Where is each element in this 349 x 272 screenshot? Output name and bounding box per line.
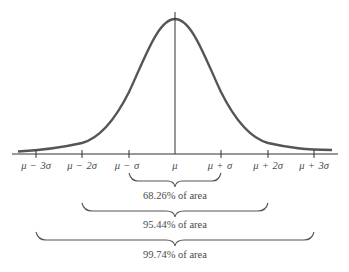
label-mu-minus-3sigma: μ−3σ — [20, 160, 51, 171]
label-mu: μ — [171, 160, 177, 171]
label-mu-minus-sigma: μ−σ — [114, 160, 140, 171]
brace-2-sigma — [82, 203, 268, 217]
label-mu-plus-2sigma: μ+2σ — [252, 160, 283, 171]
label-mu-minus-2sigma: μ−2σ — [66, 160, 97, 171]
normal-distribution-diagram: μ−3σ μ−2σ μ−σ μ μ+σ μ+2σ μ+3σ 68.26% of … — [0, 0, 349, 272]
brace-1-sigma — [129, 173, 221, 187]
label-mu-plus-sigma: μ+σ — [207, 160, 233, 171]
tick-labels: μ−3σ μ−2σ μ−σ μ μ+σ μ+2σ μ+3σ — [20, 160, 329, 171]
label-mu-plus-3sigma: μ+3σ — [298, 160, 329, 171]
area-label-68: 68.26% of area — [143, 190, 207, 201]
brace-3-sigma — [36, 232, 314, 246]
area-label-95: 95.44% of area — [143, 219, 207, 230]
area-label-99: 99.74% of area — [143, 249, 207, 260]
